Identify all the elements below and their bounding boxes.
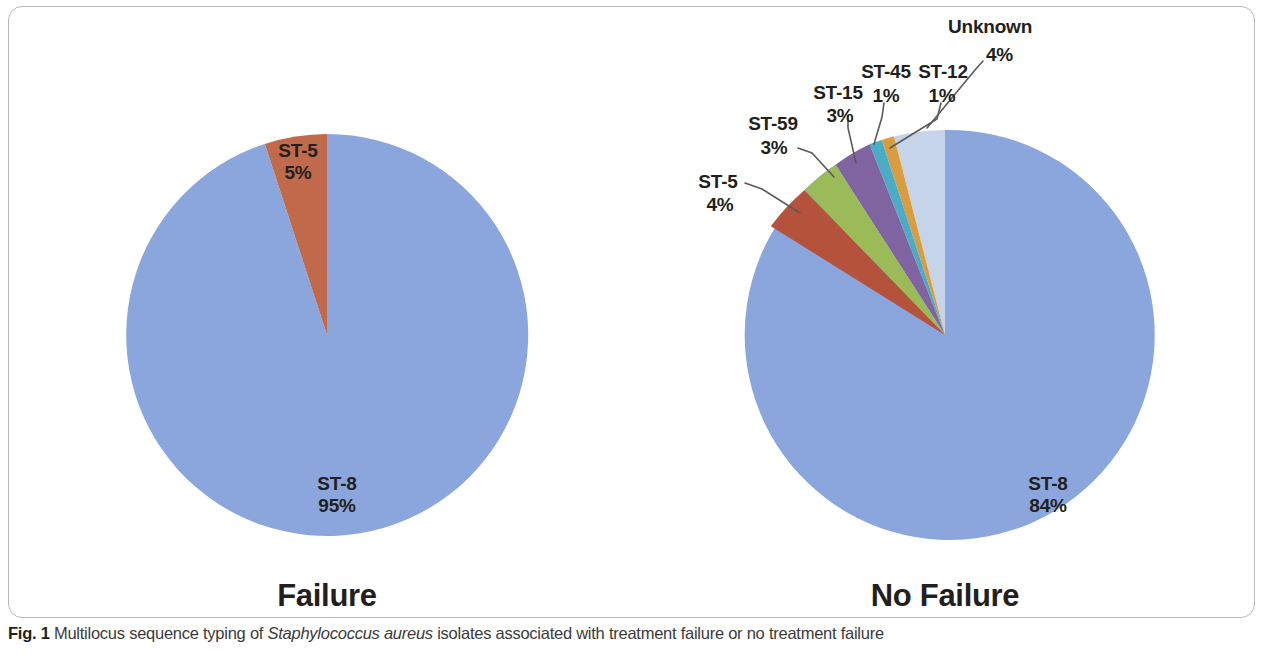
label-nofailure-st59-pct-wrap: 3% [752, 137, 796, 159]
label-nofailure-st59-percent: 3% [752, 137, 796, 159]
label-nofailure-st12-percent: 1% [920, 85, 964, 107]
pie-charts-svg [0, 0, 1263, 666]
leader-line-st45 [874, 103, 884, 144]
label-nofailure-unknown-name: Unknown [948, 16, 1038, 38]
label-failure-st5: ST-5 5% [258, 140, 338, 185]
label-failure-st8-percent: 95% [297, 495, 377, 517]
label-nofailure-st8-name: ST-8 [1008, 473, 1088, 495]
chart-title-no-failure: No Failure [795, 578, 1095, 614]
label-nofailure-st5-pct-wrap: 4% [698, 194, 742, 216]
label-nofailure-st15-percent: 3% [818, 105, 862, 127]
label-nofailure-st45-percent: 1% [864, 85, 908, 107]
label-nofailure-unknown-percent: 4% [986, 44, 1030, 66]
label-nofailure-st15-pct-wrap: 3% [818, 105, 862, 127]
label-nofailure-st5: ST-5 [690, 171, 746, 193]
label-nofailure-st15-name: ST-15 [810, 82, 866, 104]
figure-caption-text-1: Multilocus sequence typing of [54, 624, 263, 642]
label-nofailure-st8: ST-8 84% [1008, 473, 1088, 518]
chart-title-failure: Failure [197, 578, 457, 614]
label-nofailure-unknown: Unknown [948, 16, 1038, 38]
label-failure-st8: ST-8 95% [297, 473, 377, 518]
label-nofailure-unknown-pct-wrap: 4% [986, 44, 1030, 66]
label-nofailure-st12: ST-12 [915, 61, 971, 83]
label-failure-st5-percent: 5% [258, 162, 338, 184]
label-nofailure-st45-pct-wrap: 1% [864, 85, 908, 107]
label-nofailure-st5-percent: 4% [698, 194, 742, 216]
label-failure-st8-name: ST-8 [297, 473, 377, 495]
charts-layer: ST-5 5% ST-8 95% Unknown 4% ST-12 1% ST-… [0, 0, 1263, 666]
label-nofailure-st8-percent: 84% [1008, 495, 1088, 517]
label-nofailure-st45: ST-45 [858, 61, 914, 83]
figure-root: ST-5 5% ST-8 95% Unknown 4% ST-12 1% ST-… [0, 0, 1263, 666]
figure-caption-species: Staphylococcus aureus [268, 624, 433, 642]
label-failure-st5-name: ST-5 [258, 140, 338, 162]
figure-caption: Fig. 1 Multilocus sequence typing of Sta… [8, 624, 1258, 643]
figure-caption-number: Fig. 1 [8, 624, 50, 642]
label-nofailure-st12-pct-wrap: 1% [920, 85, 964, 107]
label-nofailure-st59: ST-59 [745, 113, 801, 135]
label-nofailure-st15: ST-15 [810, 82, 866, 104]
figure-caption-text-2: isolates associated with treatment failu… [437, 624, 884, 642]
label-nofailure-st59-name: ST-59 [745, 113, 801, 135]
label-nofailure-st12-name: ST-12 [915, 61, 971, 83]
leader-line-st5 [745, 183, 800, 213]
label-nofailure-st45-name: ST-45 [858, 61, 914, 83]
label-nofailure-st5-name: ST-5 [690, 171, 746, 193]
pie-no-failure [745, 130, 1155, 540]
